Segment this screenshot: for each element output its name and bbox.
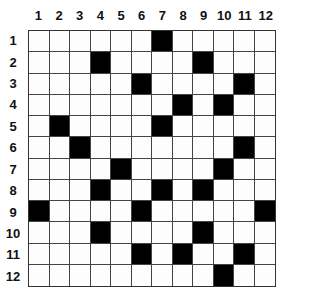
grid-cell-white[interactable]: [173, 180, 194, 201]
grid-cell-white[interactable]: [111, 52, 132, 73]
grid-cell-white[interactable]: [29, 52, 50, 73]
grid-cell-white[interactable]: [255, 74, 276, 95]
grid-cell-white[interactable]: [91, 137, 112, 158]
grid-cell-white[interactable]: [50, 222, 71, 243]
grid-cell-white[interactable]: [70, 265, 91, 286]
grid-cell-white[interactable]: [214, 222, 235, 243]
grid-cell-white[interactable]: [50, 201, 71, 222]
grid-cell-white[interactable]: [111, 137, 132, 158]
grid-cell-white[interactable]: [111, 265, 132, 286]
grid-cell-white[interactable]: [152, 244, 173, 265]
grid-cell-white[interactable]: [193, 95, 214, 116]
grid-cell-white[interactable]: [152, 201, 173, 222]
grid-cell-white[interactable]: [193, 116, 214, 137]
grid-cell-white[interactable]: [70, 116, 91, 137]
grid-cell-white[interactable]: [132, 116, 153, 137]
grid-cell-white[interactable]: [50, 95, 71, 116]
grid-cell-white[interactable]: [29, 116, 50, 137]
grid-cell-white[interactable]: [50, 180, 71, 201]
grid-cell-white[interactable]: [29, 95, 50, 116]
grid-cell-white[interactable]: [70, 74, 91, 95]
grid-cell-white[interactable]: [234, 265, 255, 286]
grid-cell-white[interactable]: [193, 74, 214, 95]
grid-cell-white[interactable]: [91, 74, 112, 95]
grid-cell-white[interactable]: [29, 265, 50, 286]
grid-cell-white[interactable]: [214, 74, 235, 95]
grid-cell-white[interactable]: [152, 159, 173, 180]
grid-cell-white[interactable]: [214, 31, 235, 52]
grid-cell-white[interactable]: [132, 31, 153, 52]
grid-cell-white[interactable]: [91, 116, 112, 137]
grid-cell-white[interactable]: [29, 137, 50, 158]
grid-cell-white[interactable]: [111, 95, 132, 116]
grid-cell-white[interactable]: [70, 52, 91, 73]
grid-cell-white[interactable]: [173, 201, 194, 222]
grid-cell-white[interactable]: [50, 137, 71, 158]
grid-cell-white[interactable]: [50, 244, 71, 265]
grid-cell-white[interactable]: [193, 201, 214, 222]
grid-cell-white[interactable]: [255, 222, 276, 243]
grid-cell-white[interactable]: [111, 74, 132, 95]
grid-cell-white[interactable]: [193, 31, 214, 52]
grid-cell-white[interactable]: [193, 244, 214, 265]
grid-cell-white[interactable]: [255, 244, 276, 265]
grid-cell-white[interactable]: [50, 31, 71, 52]
grid-cell-white[interactable]: [255, 265, 276, 286]
grid-cell-white[interactable]: [255, 31, 276, 52]
grid-cell-white[interactable]: [50, 265, 71, 286]
grid-cell-white[interactable]: [255, 137, 276, 158]
grid-cell-white[interactable]: [29, 74, 50, 95]
grid-cell-white[interactable]: [29, 159, 50, 180]
grid-cell-white[interactable]: [173, 137, 194, 158]
grid-cell-white[interactable]: [152, 74, 173, 95]
grid-cell-white[interactable]: [214, 116, 235, 137]
grid-cell-white[interactable]: [152, 265, 173, 286]
grid-cell-white[interactable]: [91, 244, 112, 265]
grid-cell-white[interactable]: [70, 159, 91, 180]
grid-cell-white[interactable]: [70, 244, 91, 265]
grid-cell-white[interactable]: [234, 180, 255, 201]
grid-cell-white[interactable]: [29, 244, 50, 265]
grid-cell-white[interactable]: [50, 74, 71, 95]
grid-cell-white[interactable]: [152, 222, 173, 243]
grid-cell-white[interactable]: [234, 201, 255, 222]
grid-cell-white[interactable]: [132, 137, 153, 158]
grid-cell-white[interactable]: [111, 180, 132, 201]
grid-cell-white[interactable]: [173, 159, 194, 180]
grid-cell-white[interactable]: [111, 31, 132, 52]
grid-cell-white[interactable]: [255, 95, 276, 116]
grid-cell-white[interactable]: [193, 137, 214, 158]
grid-cell-white[interactable]: [111, 244, 132, 265]
grid-cell-white[interactable]: [152, 95, 173, 116]
grid-cell-white[interactable]: [214, 52, 235, 73]
grid-cell-white[interactable]: [173, 222, 194, 243]
grid-cell-white[interactable]: [29, 180, 50, 201]
grid-cell-white[interactable]: [234, 52, 255, 73]
grid-cell-white[interactable]: [29, 31, 50, 52]
grid-cell-white[interactable]: [70, 31, 91, 52]
grid-cell-white[interactable]: [70, 95, 91, 116]
grid-cell-white[interactable]: [91, 265, 112, 286]
grid-cell-white[interactable]: [234, 116, 255, 137]
grid-cell-white[interactable]: [111, 116, 132, 137]
grid-cell-white[interactable]: [173, 116, 194, 137]
grid-cell-white[interactable]: [152, 52, 173, 73]
grid-cell-white[interactable]: [132, 159, 153, 180]
grid-cell-white[interactable]: [255, 52, 276, 73]
grid-cell-white[interactable]: [29, 222, 50, 243]
grid-cell-white[interactable]: [173, 265, 194, 286]
grid-cell-white[interactable]: [152, 137, 173, 158]
grid-cell-white[interactable]: [234, 95, 255, 116]
grid-cell-white[interactable]: [214, 244, 235, 265]
grid-cell-white[interactable]: [173, 31, 194, 52]
grid-cell-white[interactable]: [50, 52, 71, 73]
grid-cell-white[interactable]: [132, 95, 153, 116]
grid-cell-white[interactable]: [255, 116, 276, 137]
grid-cell-white[interactable]: [193, 265, 214, 286]
grid-cell-white[interactable]: [214, 137, 235, 158]
grid-cell-white[interactable]: [91, 95, 112, 116]
grid-cell-white[interactable]: [173, 52, 194, 73]
grid-cell-white[interactable]: [132, 222, 153, 243]
grid-cell-white[interactable]: [255, 180, 276, 201]
grid-cell-white[interactable]: [111, 201, 132, 222]
